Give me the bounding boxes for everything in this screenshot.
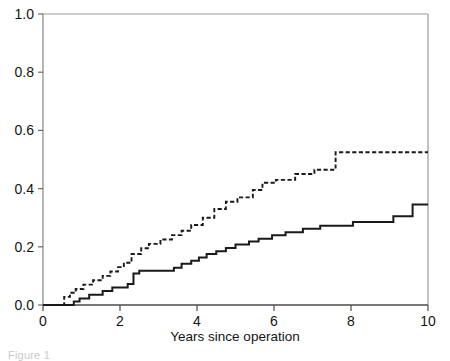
x-tick-label: 10: [420, 313, 436, 329]
x-axis-ticks: 0246810: [39, 305, 436, 329]
dashed-step-curve: [43, 152, 428, 305]
x-tick-label: 8: [347, 313, 355, 329]
y-tick-label: 0.2: [15, 239, 35, 255]
plot-frame: [43, 14, 428, 305]
y-tick-label: 0.4: [15, 181, 35, 197]
figure-caption: Figure 1: [8, 349, 50, 361]
y-axis-ticks: 0.00.20.40.60.81.0: [15, 6, 43, 313]
data-curves: [43, 152, 428, 305]
x-tick-label: 0: [39, 313, 47, 329]
y-tick-label: 0.0: [15, 297, 35, 313]
y-tick-label: 0.8: [15, 64, 35, 80]
x-axis-title: Years since operation: [170, 329, 299, 344]
y-tick-label: 0.6: [15, 122, 35, 138]
x-tick-label: 2: [116, 313, 124, 329]
x-tick-label: 6: [270, 313, 278, 329]
solid-step-curve: [43, 205, 428, 305]
y-tick-label: 1.0: [15, 6, 35, 22]
x-tick-label: 4: [193, 313, 201, 329]
